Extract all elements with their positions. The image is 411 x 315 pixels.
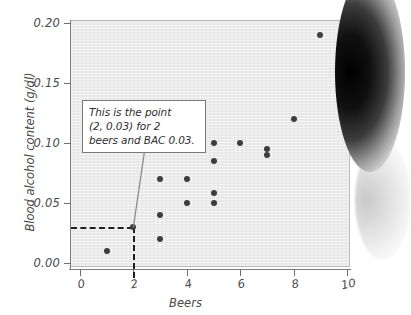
annotation-line-1: This is the point (89, 105, 200, 119)
annotation-line-2: (2, 0.03) for 2 (89, 119, 200, 133)
annotation-callout: This is the point (2, 0.03) for 2 beers … (82, 100, 206, 153)
annotation-line-3: beers and BAC 0.03. (89, 133, 200, 147)
